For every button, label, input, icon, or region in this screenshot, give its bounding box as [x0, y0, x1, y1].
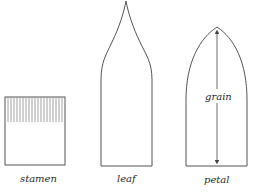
petal-label: petal — [204, 174, 230, 185]
leaf-shape — [101, 1, 152, 166]
paper-shapes-diagram: stamen leaf grain petal — [0, 0, 253, 196]
grain-label: grain — [205, 91, 232, 102]
stamen-fringe — [8, 97, 62, 122]
stamen-shape — [5, 97, 65, 165]
stamen-label: stamen — [20, 173, 57, 184]
leaf-label: leaf — [117, 173, 138, 184]
